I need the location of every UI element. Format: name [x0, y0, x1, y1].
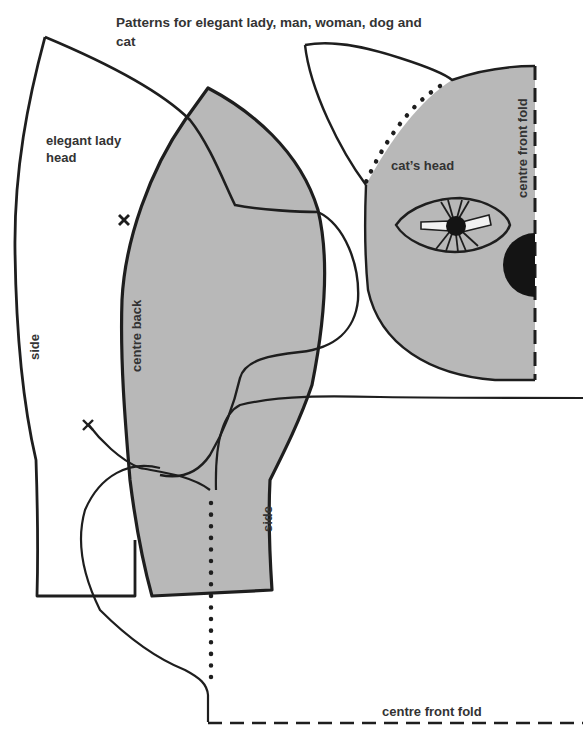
cats-ear-left-edge	[305, 45, 366, 185]
pattern-drawing	[0, 0, 585, 740]
cats-head-label: cat’s head	[391, 157, 454, 174]
elegant-lady-head-label-line2: head	[46, 149, 76, 166]
side-label-left: side	[26, 334, 43, 360]
x-mark-lower	[83, 420, 93, 430]
centre-back-label: centre back	[128, 300, 145, 372]
centre-back-piece	[122, 88, 325, 596]
elegant-lady-head-side-edge	[15, 37, 135, 596]
cats-centre-front-fold-label: centre front fold	[514, 98, 531, 198]
page-title: Patterns for elegant lady, man, woman, d…	[116, 13, 426, 51]
bottom-centre-front-fold-label: centre front fold	[382, 703, 482, 720]
pattern-page: Patterns for elegant lady, man, woman, d…	[0, 0, 585, 740]
elegant-lady-head-label-line1: elegant lady	[46, 132, 121, 149]
side-label-right: side	[259, 506, 276, 532]
x-mark-upper	[119, 215, 129, 225]
